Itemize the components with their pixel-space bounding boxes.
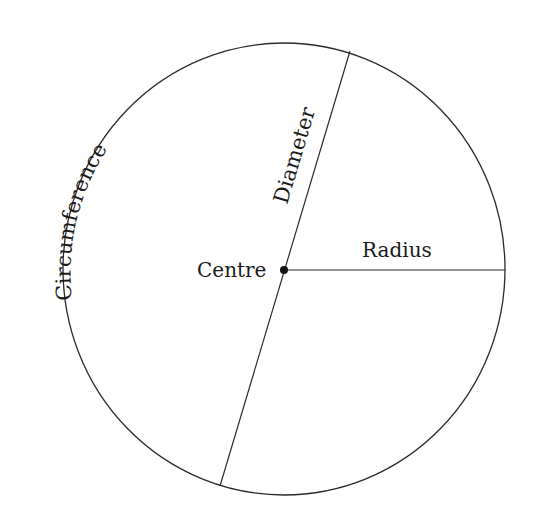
circumference-label-text: Circumference [51, 139, 111, 302]
centre-label: Centre [197, 258, 266, 282]
centre-point [280, 266, 288, 274]
diameter-label: Diameter [269, 103, 321, 206]
circumference-label: Circumference [51, 139, 111, 302]
radius-label: Radius [362, 238, 432, 262]
circle-diagram: Circumference Diameter Centre Radius [0, 0, 543, 528]
